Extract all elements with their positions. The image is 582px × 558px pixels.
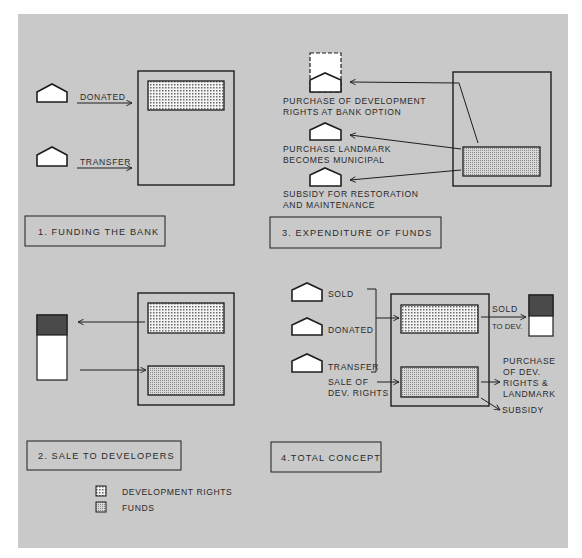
use-label: SUBSIDY FOR RESTORATION bbox=[283, 189, 419, 199]
legend-swatch-development-rights bbox=[96, 486, 106, 496]
use-label: PURCHASE OF DEVELOPMENT bbox=[283, 96, 426, 106]
development-rights-block bbox=[401, 305, 478, 333]
developer-building-top bbox=[529, 295, 553, 316]
source-label-transfer: TRANSFER bbox=[80, 157, 131, 167]
source-label-donated: DONATED bbox=[80, 92, 126, 102]
legend-swatch-funds bbox=[96, 502, 106, 512]
use-label: PURCHASE LANDMARK bbox=[283, 144, 391, 154]
legend-label: DEVELOPMENT RIGHTS bbox=[122, 487, 232, 497]
panel-title: 4.TOTAL CONCEPT bbox=[281, 453, 381, 463]
transfer-of-development-rights-diagram: DONATED TRANSFER 1. FUNDING THE BANK PUR… bbox=[0, 0, 582, 558]
output-label-purchase: OF DEV. bbox=[503, 367, 541, 377]
use-label: AND MAINTENANCE bbox=[283, 200, 375, 210]
use-label: RIGHTS AT BANK OPTION bbox=[283, 107, 401, 117]
sale-input-label: SALE OF bbox=[328, 377, 369, 387]
output-label-subsidy: SUBSIDY bbox=[502, 405, 544, 415]
development-rights-block bbox=[148, 303, 224, 333]
use-label: BECOMES MUNICIPAL bbox=[283, 155, 385, 165]
input-label-donated: DONATED bbox=[328, 325, 374, 335]
panel-title: 1. FUNDING THE BANK bbox=[38, 227, 159, 237]
panel-title: 2. SALE TO DEVELOPERS bbox=[38, 451, 175, 461]
development-rights-block bbox=[148, 81, 224, 110]
input-label-sold: SOLD bbox=[328, 289, 354, 299]
output-label-purchase: LANDMARK bbox=[503, 389, 556, 399]
output-label-purchase: PURCHASE bbox=[503, 356, 556, 366]
output-label-sold: SOLD bbox=[492, 304, 518, 314]
sale-input-label: DEV. RIGHTS bbox=[328, 388, 389, 398]
legend-label: FUNDS bbox=[122, 503, 155, 513]
diagram-canvas: DONATED TRANSFER 1. FUNDING THE BANK PUR… bbox=[0, 0, 582, 558]
output-label-purchase: RIGHTS & bbox=[503, 378, 548, 388]
funds-block bbox=[401, 367, 478, 397]
input-label-transfer: TRANSFER bbox=[328, 362, 379, 372]
developer-building-top bbox=[37, 315, 67, 335]
panel-title: 3. EXPENDITURE OF FUNDS bbox=[282, 228, 432, 238]
output-label-to-dev: TO DEV. bbox=[492, 322, 522, 331]
funds-block bbox=[463, 147, 540, 176]
funds-block bbox=[148, 366, 224, 395]
